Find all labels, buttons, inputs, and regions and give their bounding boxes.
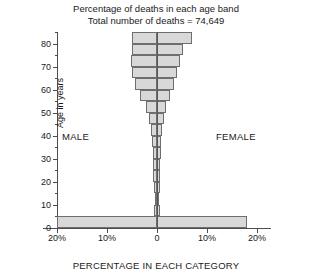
y-tick-major-30 xyxy=(53,159,57,160)
bar-male-80-85 xyxy=(132,32,158,44)
bar-female-55-60 xyxy=(157,90,170,102)
x-tick-label-10%: 10% xyxy=(198,234,216,243)
bar-female-65-70 xyxy=(157,67,177,79)
male-region-label: MALE xyxy=(62,131,89,142)
x-tick-label-10%: 10% xyxy=(98,234,116,243)
bar-male-60-65 xyxy=(135,78,157,90)
y-tick-major-10 xyxy=(53,205,57,206)
y-tick-label-60: 60 xyxy=(41,86,51,95)
bar-female-50-55 xyxy=(157,101,166,113)
y-tick-label-80: 80 xyxy=(41,40,51,49)
y-tick-label-0: 0 xyxy=(46,224,51,233)
bar-female-80-85 xyxy=(157,32,192,44)
y-tick-major-80 xyxy=(53,44,57,45)
y-tick-minor-35 xyxy=(55,147,57,148)
bar-male-55-60 xyxy=(140,90,157,102)
y-tick-label-10: 10 xyxy=(41,201,51,210)
y-tick-label-20: 20 xyxy=(41,178,51,187)
bar-female-75-80 xyxy=(157,44,183,56)
bar-female-0-5 xyxy=(157,216,247,228)
bar-male-50-55 xyxy=(146,101,158,113)
y-tick-major-40 xyxy=(53,136,57,137)
center-zero-line xyxy=(157,32,158,228)
y-tick-major-70 xyxy=(53,67,57,68)
x-tick-label-0: 0 xyxy=(154,234,159,243)
bar-male-75-80 xyxy=(132,44,158,56)
y-tick-label-70: 70 xyxy=(41,63,51,72)
population-pyramid-chart: Percentage of deaths in each age band To… xyxy=(0,0,312,278)
x-axis-title: PERCENTAGE IN EACH CATEGORY xyxy=(0,260,312,271)
plot-area: 01020304050607080 20%10%010%20% Age in y… xyxy=(57,32,257,228)
y-axis-line xyxy=(57,32,58,228)
y-tick-label-40: 40 xyxy=(41,132,51,141)
y-tick-major-20 xyxy=(53,182,57,183)
bar-male-65-70 xyxy=(132,67,157,79)
y-tick-minor-25 xyxy=(55,170,57,171)
bar-female-70-75 xyxy=(157,55,180,67)
y-tick-minor-85 xyxy=(55,32,57,33)
y-axis-title: Age in years xyxy=(55,78,65,128)
y-tick-minor-5 xyxy=(55,216,57,217)
bar-male-70-75 xyxy=(131,55,157,67)
x-tick-label-20%: 20% xyxy=(48,234,66,243)
chart-title: Percentage of deaths in each age band xyxy=(0,3,312,15)
bar-male-0-5 xyxy=(57,216,157,228)
bar-female-60-65 xyxy=(157,78,174,90)
y-tick-minor-75 xyxy=(55,55,57,56)
y-tick-minor-15 xyxy=(55,193,57,194)
female-region-label: FEMALE xyxy=(216,131,256,142)
chart-title-block: Percentage of deaths in each age band To… xyxy=(0,3,312,27)
y-tick-label-30: 30 xyxy=(41,155,51,164)
chart-subtitle: Total number of deaths = 74,649 xyxy=(0,15,312,27)
bar-male-45-50 xyxy=(149,113,158,125)
x-tick-label-20%: 20% xyxy=(248,234,266,243)
y-tick-label-50: 50 xyxy=(41,109,51,118)
